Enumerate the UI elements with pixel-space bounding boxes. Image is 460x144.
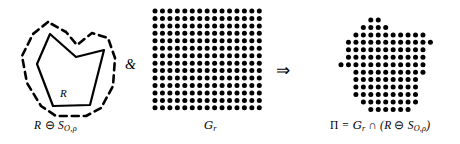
grid-dot	[212, 105, 217, 110]
grid-dot	[212, 76, 217, 81]
grid-dot	[197, 38, 202, 43]
grid-dot	[197, 23, 202, 28]
grid-dot	[160, 46, 165, 51]
grid-dot	[257, 61, 262, 66]
panel-sampling-grid	[153, 9, 262, 111]
result-dot	[391, 40, 396, 45]
result-dot	[413, 77, 418, 82]
result-dot	[346, 62, 351, 67]
result-dot	[383, 25, 388, 30]
grid-dot	[220, 90, 225, 95]
grid-dot	[160, 31, 165, 36]
grid-dot	[205, 83, 210, 88]
grid-dot	[197, 90, 202, 95]
grid-dot	[190, 53, 195, 58]
result-dot	[391, 77, 396, 82]
grid-dot	[197, 76, 202, 81]
grid-dot	[249, 61, 254, 66]
result-dot	[391, 62, 396, 67]
result-dot	[376, 55, 381, 60]
grid-dot	[167, 38, 172, 43]
result-dot	[376, 62, 381, 67]
grid-dot	[234, 68, 239, 73]
grid-dot	[227, 98, 232, 103]
grid-dot	[167, 90, 172, 95]
grid-dot	[205, 31, 210, 36]
grid-dot	[234, 46, 239, 51]
grid-dot	[227, 46, 232, 51]
result-dot	[398, 62, 403, 67]
result-dot	[346, 55, 351, 60]
grid-dot	[175, 68, 180, 73]
grid-dot	[227, 31, 232, 36]
result-dot	[361, 25, 366, 30]
grid-dot	[249, 98, 254, 103]
grid-dot	[190, 98, 195, 103]
grid-dot	[153, 105, 158, 110]
result-dot	[361, 70, 366, 75]
grid-dot	[175, 98, 180, 103]
result-dot	[420, 32, 425, 37]
grid-dot	[220, 83, 225, 88]
grid-dot	[212, 38, 217, 43]
grid-dot	[190, 23, 195, 28]
grid-dot	[175, 16, 180, 21]
result-dot	[361, 40, 366, 45]
result-dot	[406, 40, 411, 45]
grid-dot	[249, 90, 254, 95]
result-dot	[420, 55, 425, 60]
grid-dot	[197, 53, 202, 58]
result-dot	[361, 92, 366, 97]
grid-dot	[160, 83, 165, 88]
result-dot	[398, 99, 403, 104]
result-dot	[383, 70, 388, 75]
grid-dot	[182, 68, 187, 73]
grid-dot	[257, 76, 262, 81]
result-dot	[391, 99, 396, 104]
grid-dot	[234, 38, 239, 43]
result-dot	[398, 47, 403, 52]
grid-dot	[182, 83, 187, 88]
result-dot	[368, 77, 373, 82]
result-dot	[406, 77, 411, 82]
result-dot	[383, 77, 388, 82]
grid-dot	[227, 105, 232, 110]
grid-dot	[257, 105, 262, 110]
grid-dot	[190, 46, 195, 51]
result-dot	[368, 55, 373, 60]
region-polygon	[37, 34, 104, 106]
grid-dot	[242, 68, 247, 73]
grid-dot	[249, 46, 254, 51]
grid-dot	[175, 53, 180, 58]
grid-dot	[257, 31, 262, 36]
result-dot	[398, 40, 403, 45]
grid-dot	[205, 98, 210, 103]
grid-dot	[242, 53, 247, 58]
result-dot	[413, 55, 418, 60]
result-dot	[376, 77, 381, 82]
grid-dot	[220, 9, 225, 14]
grid-dot	[153, 61, 158, 66]
grid-dot	[190, 76, 195, 81]
grid-dot	[167, 61, 172, 66]
grid-dot	[227, 23, 232, 28]
grid-dot	[160, 90, 165, 95]
grid-dot	[249, 68, 254, 73]
result-dot	[368, 40, 373, 45]
result-dot	[346, 47, 351, 52]
grid-dot	[234, 9, 239, 14]
result-dot	[413, 85, 418, 90]
result-dot	[376, 107, 381, 112]
grid-dot	[212, 53, 217, 58]
grid-dot	[220, 31, 225, 36]
result-dot	[383, 92, 388, 97]
result-dot	[376, 85, 381, 90]
grid-dot	[175, 23, 180, 28]
result-dot	[413, 32, 418, 37]
result-dot	[420, 70, 425, 75]
grid-dot	[197, 9, 202, 14]
grid-dot	[160, 53, 165, 58]
grid-dot	[197, 98, 202, 103]
grid-dot	[212, 83, 217, 88]
grid-dot	[242, 83, 247, 88]
